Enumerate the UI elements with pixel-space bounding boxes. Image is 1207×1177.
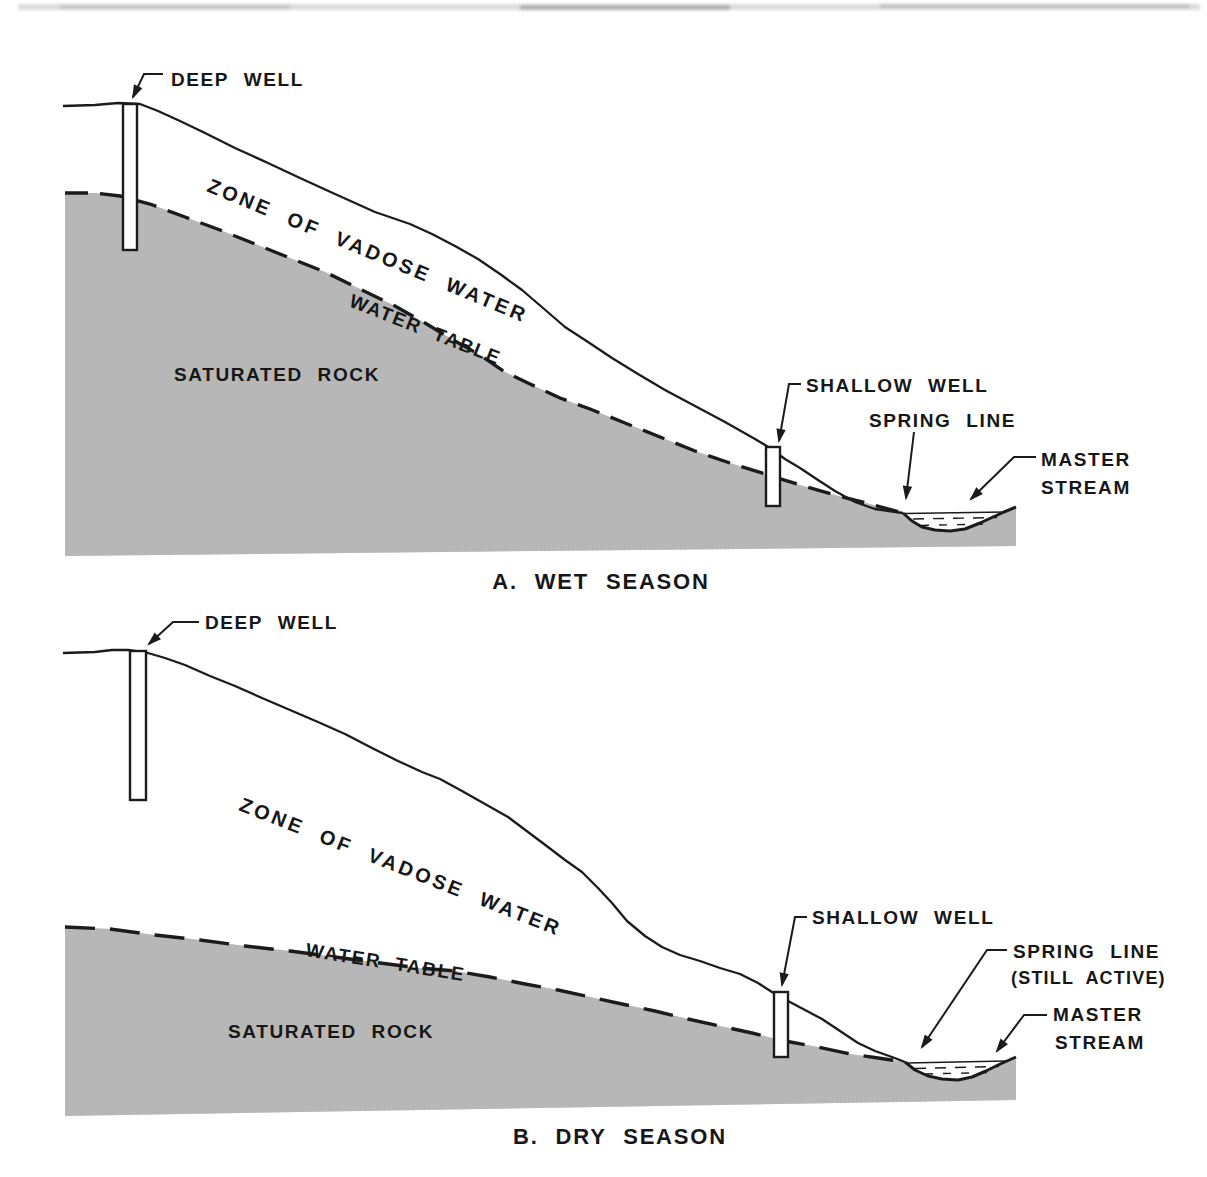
stream-water-surface-a <box>905 512 1005 514</box>
deep-well-leader-a <box>133 74 163 97</box>
shallow-well-b <box>774 992 788 1057</box>
cross-section-figure: DEEP WELL ZONE OF VADOSE WATER WATER TAB… <box>0 0 1207 1177</box>
deep-well-label-a: DEEP WELL <box>171 69 304 90</box>
spring-line-leader-a <box>906 432 914 498</box>
panel-a-wet-season: DEEP WELL ZONE OF VADOSE WATER WATER TAB… <box>63 69 1131 594</box>
spring-line-label-b: SPRING LINE <box>1013 941 1160 962</box>
master-stream-label-b-line2: STREAM <box>1055 1032 1145 1053</box>
stream-water-surface-b <box>907 1061 1006 1063</box>
shallow-well-leader-a <box>779 384 801 441</box>
saturated-rock-label-a: SATURATED ROCK <box>174 364 380 385</box>
shallow-well-leader-b <box>782 917 807 985</box>
shallow-well-label-b: SHALLOW WELL <box>812 907 994 928</box>
deep-well-label-b: DEEP WELL <box>205 612 338 633</box>
stream-water-ripples-a-row1 <box>913 518 997 520</box>
panel-b-dry-season: DEEP WELL ZONE OF VADOSE WATER WATER TAB… <box>63 612 1166 1149</box>
saturated-rock-texture-b <box>65 927 1016 1116</box>
spring-line-note-label-b: (STILL ACTIVE) <box>1011 968 1166 988</box>
saturated-rock-label-b: SATURATED ROCK <box>228 1021 434 1042</box>
figure-canvas: DEEP WELL ZONE OF VADOSE WATER WATER TAB… <box>0 0 1207 1177</box>
zone-of-vadose-water-label-b: ZONE OF VADOSE WATER <box>237 793 566 940</box>
stream-water-ripples-b-row1 <box>915 1067 999 1069</box>
spring-line-leader-b <box>922 950 1007 1047</box>
panel-a-caption: A. WET SEASON <box>492 569 709 594</box>
master-stream-leader-b <box>997 1015 1047 1051</box>
deep-well-b <box>130 651 146 800</box>
scan-artifact-top-smudge <box>18 4 1200 10</box>
master-stream-label-a-line2: STREAM <box>1041 477 1131 498</box>
deep-well-leader-b <box>149 622 199 644</box>
master-stream-label-b-line1: MASTER <box>1053 1004 1143 1025</box>
deep-well-a <box>123 104 137 250</box>
shallow-well-label-a: SHALLOW WELL <box>806 375 988 396</box>
master-stream-label-a-line1: MASTER <box>1041 449 1131 470</box>
master-stream-leader-a <box>971 457 1036 499</box>
shallow-well-a <box>766 447 780 506</box>
spring-line-label-a: SPRING LINE <box>869 410 1016 431</box>
panel-b-caption: B. DRY SEASON <box>513 1124 727 1149</box>
